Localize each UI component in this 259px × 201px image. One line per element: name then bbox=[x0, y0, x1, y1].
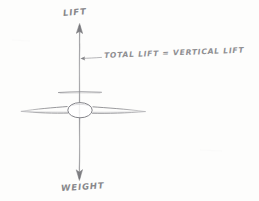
sketch-canvas: LIFT TOTAL LIFT = VERTICAL LIFT WEIGHT bbox=[0, 0, 259, 201]
lift-force-arrow bbox=[76, 24, 82, 114]
aircraft-front-view bbox=[21, 92, 146, 118]
leader-line bbox=[82, 57, 101, 58]
weight-force-arrow bbox=[76, 110, 82, 181]
fuselage-ellipse bbox=[68, 103, 92, 118]
annotation-leader bbox=[80, 56, 101, 60]
diagram-svg bbox=[0, 0, 259, 201]
lift-label: LIFT bbox=[63, 6, 88, 18]
